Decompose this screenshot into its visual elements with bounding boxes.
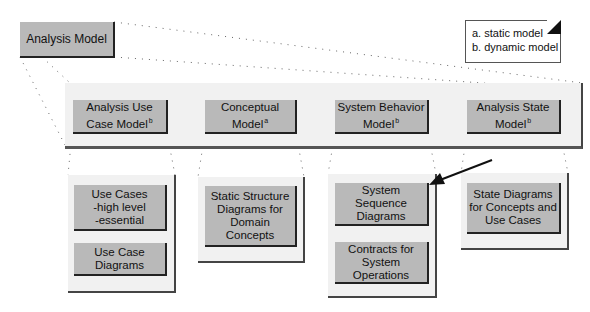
highlight-arrow-icon [0,0,590,312]
